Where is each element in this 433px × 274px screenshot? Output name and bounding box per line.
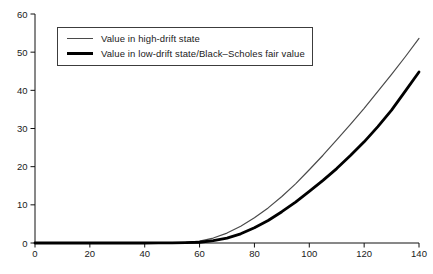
x-tick-label: 40 — [139, 248, 150, 259]
x-tick-label: 20 — [85, 248, 96, 259]
x-tick-label: 140 — [411, 248, 427, 259]
y-tick-label: 20 — [17, 161, 28, 172]
thin-line-swatch — [67, 38, 93, 39]
y-tick-label: 30 — [17, 123, 28, 134]
thick-line-swatch — [67, 52, 93, 55]
legend-label-high-drift: Value in high-drift state — [101, 33, 200, 44]
legend-item-high-drift: Value in high-drift state — [67, 31, 305, 46]
x-tick-label: 60 — [194, 248, 205, 259]
series-curve-1 — [35, 72, 419, 243]
y-tick-label: 50 — [17, 47, 28, 58]
x-tick-label: 0 — [32, 248, 37, 259]
chart-legend: Value in high-drift state Value in low-d… — [57, 27, 313, 66]
y-tick-label: 40 — [17, 85, 28, 96]
option-value-chart-figure: 0204060801001201400102030405060 Value in… — [0, 0, 433, 274]
legend-label-low-drift: Value in low-drift state/Black–Scholes f… — [101, 48, 305, 59]
y-tick-label: 0 — [22, 238, 27, 249]
series-curve-0 — [35, 38, 419, 243]
x-tick-label: 100 — [301, 248, 317, 259]
legend-item-low-drift: Value in low-drift state/Black–Scholes f… — [67, 46, 305, 61]
y-tick-label: 60 — [17, 9, 28, 20]
x-tick-label: 120 — [356, 248, 372, 259]
y-tick-label: 10 — [17, 199, 28, 210]
x-tick-label: 80 — [249, 248, 260, 259]
